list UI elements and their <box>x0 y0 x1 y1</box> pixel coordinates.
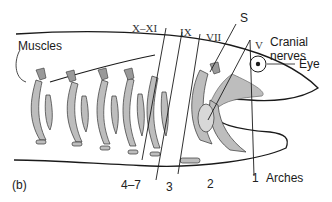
label-arch-1: 1 <box>252 172 259 184</box>
label-arch-2: 2 <box>207 178 214 190</box>
arch-group-4-7 <box>31 76 168 156</box>
muscle-tufts <box>36 62 220 82</box>
label-nerve-vii: VII <box>206 32 221 43</box>
eye-pupil <box>256 62 260 66</box>
label-arch-3: 3 <box>166 181 173 193</box>
label-nerve-v: V <box>255 40 263 51</box>
muscles-leader-line <box>16 50 26 82</box>
diagram-figure: Muscles X–XI IX VII S V Cranial nerves E… <box>0 0 332 202</box>
label-cranial: Cranial <box>270 36 308 48</box>
label-nerve-x-xi: X–XI <box>132 23 157 34</box>
label-nerve-ix: IX <box>180 27 192 38</box>
label-arches: Arches <box>266 172 303 184</box>
label-eye: Eye <box>299 58 320 70</box>
label-muscles: Muscles <box>18 40 62 52</box>
panel-label: (b) <box>12 179 27 191</box>
label-arch-4-7: 4–7 <box>121 179 141 191</box>
label-nerve-s: S <box>240 12 248 24</box>
